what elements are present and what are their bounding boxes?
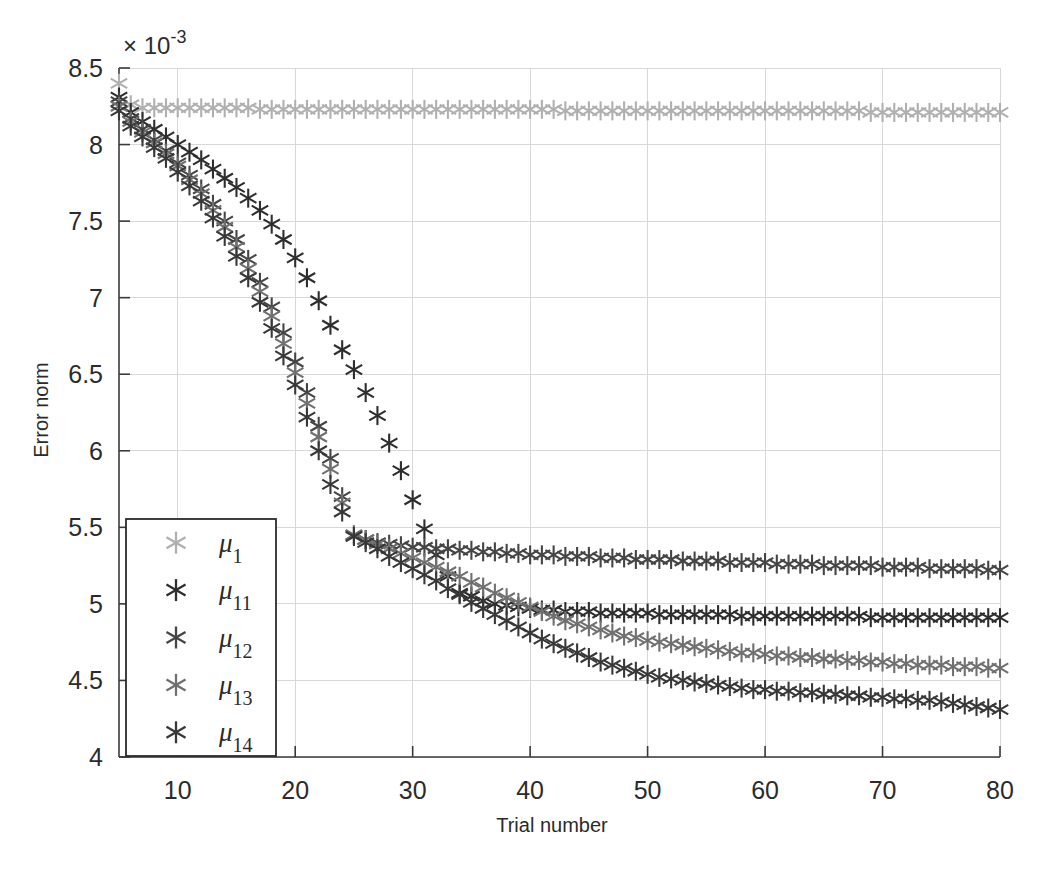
y-tick-label: 5 [89,590,103,618]
data-point [992,561,1008,580]
data-point [440,100,456,119]
x-tick-label: 70 [869,776,897,804]
data-point [910,103,926,122]
data-point [686,101,702,120]
data-point [628,604,644,623]
data-point [816,556,832,575]
data-point [616,101,632,120]
data-point [980,608,996,627]
data-point [722,553,738,572]
x-tick-label: 60 [751,776,779,804]
data-point [663,550,679,569]
data-point [968,103,984,122]
y-axis-title: Error norm [30,362,52,458]
data-point [710,101,726,120]
data-point [827,556,843,575]
data-point [463,541,479,560]
data-point [357,383,373,402]
data-point [886,103,902,122]
data-point [816,650,832,669]
data-point [675,101,691,120]
y-tick-label: 4 [89,743,103,771]
data-point [404,490,420,509]
data-point [957,559,973,578]
data-point [252,201,268,220]
data-point [863,688,879,707]
data-point [498,611,514,630]
data-point [804,683,820,702]
data-point [193,98,209,117]
exponent-power: -3 [170,27,186,47]
data-point [310,100,326,119]
data-point [322,100,338,119]
data-point [769,607,785,626]
data-point [769,646,785,665]
chart-legend[interactable]: μ1μ11μ12μ13μ14 [126,519,276,756]
data-point [769,682,785,701]
data-point [263,100,279,119]
data-point [839,651,855,670]
data-point [663,605,679,624]
data-point [945,694,961,713]
data-point [369,100,385,119]
data-point [663,634,679,653]
data-point [592,548,608,567]
data-point [780,101,796,120]
data-point [686,637,702,656]
data-point [980,561,996,580]
data-point [921,656,937,675]
data-point [228,98,244,117]
data-point [816,101,832,120]
data-point [369,406,385,425]
data-point [722,642,738,661]
data-point [651,605,667,624]
data-point [992,103,1008,122]
data-point [886,608,902,627]
data-point [733,607,749,626]
data-point [945,559,961,578]
data-point [745,643,761,662]
data-point [921,691,937,710]
data-point [745,101,761,120]
data-point [839,607,855,626]
data-point [804,648,820,667]
data-point [851,651,867,670]
series-μ12 [111,92,1008,580]
data-point [757,553,773,572]
data-point [968,608,984,627]
data-point [451,100,467,119]
data-point [804,607,820,626]
data-point [851,607,867,626]
data-point [604,101,620,120]
data-point [769,101,785,120]
data-point [510,544,526,563]
data-point [675,636,691,655]
y-axis-exponent-label: × 10-3 [123,27,186,59]
data-point [757,645,773,664]
data-point [205,98,221,117]
data-point [968,697,984,716]
data-point [322,475,338,494]
data-point [980,103,996,122]
data-point [874,103,890,122]
data-point [733,553,749,572]
data-point [639,101,655,120]
data-point [863,608,879,627]
data-point [874,558,890,577]
y-tick-label: 7.5 [68,207,103,235]
data-point [945,608,961,627]
data-point [675,605,691,624]
data-point [933,559,949,578]
data-point [827,685,843,704]
data-point [933,656,949,675]
data-point [898,558,914,577]
data-point [780,646,796,665]
data-point [604,548,620,567]
data-point [933,103,949,122]
y-tick-label: 8.5 [68,54,103,82]
x-tick-label: 20 [281,776,309,804]
data-point [651,101,667,120]
data-point [522,623,538,642]
data-point [628,101,644,120]
data-point [874,608,890,627]
